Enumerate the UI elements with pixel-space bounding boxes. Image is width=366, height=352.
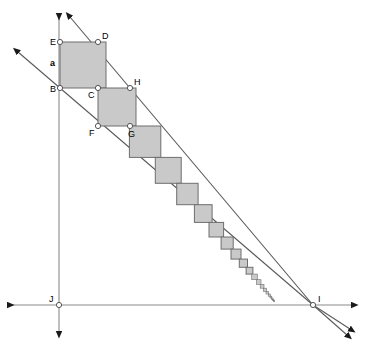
figure-canvas: a EDBCHFGJI xyxy=(0,0,366,352)
square-21 xyxy=(274,301,275,302)
vertex-label-I: I xyxy=(318,294,321,304)
square-14 xyxy=(260,284,264,288)
square-10 xyxy=(239,259,247,267)
vertex-H xyxy=(127,85,132,90)
vertex-J xyxy=(56,302,61,307)
vertex-D xyxy=(95,39,100,44)
square-2 xyxy=(98,88,136,126)
square-8 xyxy=(221,237,233,249)
vertex-label-J: J xyxy=(49,294,54,304)
vertex-F xyxy=(95,123,100,128)
vertex-label-E: E xyxy=(50,37,56,47)
square-6 xyxy=(194,205,212,223)
vertex-label-B: B xyxy=(50,84,56,94)
vertex-I xyxy=(310,302,315,307)
square-11 xyxy=(246,267,253,274)
vertex-label-G: G xyxy=(128,129,135,139)
square-4 xyxy=(155,157,181,183)
upper-ray-extension xyxy=(313,305,350,329)
vertex-E xyxy=(57,39,62,44)
vertex-label-D: D xyxy=(102,31,109,41)
vertex-B xyxy=(57,85,62,90)
vertex-label-C: C xyxy=(88,90,95,100)
square-9 xyxy=(231,249,241,259)
square-13 xyxy=(256,280,261,285)
vertex-label-H: H xyxy=(134,77,141,87)
lower-ray-extension xyxy=(313,305,347,335)
vertex-C xyxy=(95,85,100,90)
vertex-G xyxy=(127,123,132,128)
square-16 xyxy=(266,291,269,294)
vertex-label-F: F xyxy=(89,128,95,138)
geometry-figure: a EDBCHFGJI xyxy=(0,0,366,352)
square-1 xyxy=(60,42,106,88)
side-label-a: a xyxy=(50,58,56,68)
square-7 xyxy=(209,222,224,237)
square-15 xyxy=(263,288,266,291)
square-17 xyxy=(268,294,270,296)
square-12 xyxy=(252,274,258,280)
squares-group xyxy=(60,42,275,302)
square-5 xyxy=(177,183,198,204)
